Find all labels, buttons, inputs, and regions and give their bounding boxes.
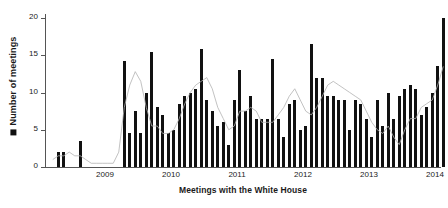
y-axis-tick-label: 20: [29, 12, 38, 21]
trend-line-path: [53, 66, 444, 163]
x-axis-title: Meetings with the White House: [45, 185, 441, 195]
y-axis-tick-label: 15: [29, 49, 38, 58]
x-axis-tick-label: 2011: [228, 170, 245, 179]
bar: [442, 18, 445, 167]
y-axis-label-wrapper: Number of meetings: [0, 0, 26, 172]
x-axis-tick-labels: 200920102011201220132014: [45, 170, 441, 182]
x-axis-tick-label: 2010: [162, 170, 180, 179]
y-axis-tick-label: 5: [34, 124, 38, 133]
x-axis-tick-label: 2014: [426, 170, 444, 179]
plot-area: 05101520: [45, 14, 441, 168]
y-axis-label-text: Number of meetings: [8, 37, 18, 126]
y-axis-label: Number of meetings: [8, 37, 18, 136]
chart-container: Number of meetings 05101520 200920102011…: [0, 0, 448, 208]
x-axis-tick-label: 2009: [96, 170, 114, 179]
trend-line: [45, 14, 441, 168]
x-axis-tick-label: 2013: [360, 170, 378, 179]
x-axis-tick-label: 2012: [294, 170, 312, 179]
y-axis-tick-label: 10: [29, 87, 38, 96]
legend-square-icon: [10, 129, 16, 135]
y-axis-tick-label: 0: [34, 161, 38, 170]
